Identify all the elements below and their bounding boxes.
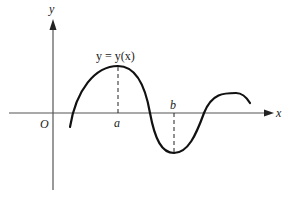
y-axis-label: y [48, 2, 55, 16]
point-b-label: b [170, 98, 176, 112]
origin-label: O [40, 117, 49, 131]
x-axis-label: x [275, 106, 282, 120]
y-axis-arrow-icon [50, 19, 57, 30]
x-axis-arrow-icon [264, 110, 274, 117]
function-graph-diagram: y x O a b y = y(x) [0, 0, 285, 198]
function-curve [70, 66, 250, 153]
equation-label: y = y(x) [96, 49, 135, 63]
point-a-label: a [114, 116, 120, 130]
